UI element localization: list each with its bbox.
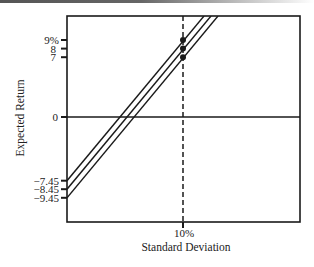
y-tick-label-0: 0	[53, 111, 59, 123]
y-tick-label-7: 7	[51, 51, 57, 63]
y-axis-title: Expected Return	[14, 79, 27, 156]
x-tick-label-10: 10%	[174, 227, 194, 239]
series-lines	[67, 16, 218, 198]
point-7pct	[180, 54, 186, 60]
y-tick-label-m945: −9.45	[34, 192, 60, 204]
x-axis-title: Standard Deviation	[141, 241, 230, 253]
point-8pct	[180, 46, 186, 52]
chart: 9% 8 7 0 −7.45 −8.45 −9.45 10% Standard …	[0, 0, 314, 267]
point-9pct	[180, 37, 186, 43]
line-series-7	[67, 16, 218, 198]
y-ticks	[61, 40, 67, 198]
line-series-8	[67, 16, 211, 189]
